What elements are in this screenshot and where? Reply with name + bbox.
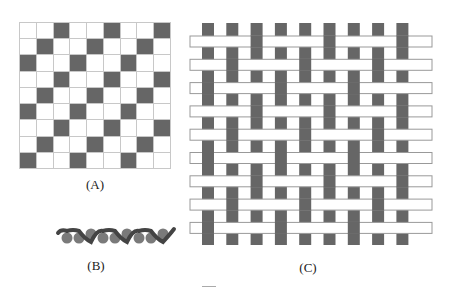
grid-cell xyxy=(87,120,104,136)
grid-cell xyxy=(137,153,154,169)
grid-cell xyxy=(87,153,104,169)
weft-strip xyxy=(190,106,432,117)
cross-section-diagram xyxy=(55,225,177,249)
grid-cell xyxy=(20,23,37,39)
grid-cell xyxy=(154,39,171,55)
grid-cell xyxy=(137,137,154,153)
grid-cell xyxy=(20,120,37,136)
grid-cell xyxy=(121,72,138,88)
grid-cell xyxy=(54,55,71,71)
grid-cell xyxy=(104,137,121,153)
grid-cell xyxy=(154,153,171,169)
grid-cell xyxy=(20,39,37,55)
grid-cell xyxy=(87,72,104,88)
panel-a-label: (A) xyxy=(75,177,115,193)
grid-cell xyxy=(104,23,121,39)
grid-cell xyxy=(54,88,71,104)
grid-cell xyxy=(37,153,54,169)
weave-draft-grid-panel xyxy=(19,22,171,169)
grid-cell xyxy=(154,55,171,71)
grid-cell xyxy=(20,137,37,153)
grid-cell xyxy=(54,23,71,39)
grid-cell xyxy=(37,88,54,104)
weft-strip xyxy=(190,83,432,94)
grid-cell xyxy=(87,39,104,55)
grid-cell xyxy=(54,153,71,169)
grid-cell xyxy=(70,23,87,39)
weft-strip xyxy=(190,176,432,187)
grid-cell xyxy=(137,39,154,55)
woven-fabric-diagram xyxy=(188,20,436,250)
grid-cell xyxy=(70,104,87,120)
grid-cell xyxy=(87,88,104,104)
grid-cell xyxy=(154,23,171,39)
grid-cell xyxy=(87,104,104,120)
grid-cell xyxy=(37,55,54,71)
grid-cell xyxy=(54,104,71,120)
grid-cell xyxy=(104,88,121,104)
grid-cell xyxy=(104,39,121,55)
grid-cell xyxy=(137,120,154,136)
grid-cell xyxy=(104,72,121,88)
grid-cell xyxy=(70,39,87,55)
weft-strip xyxy=(190,36,432,47)
grid-cell xyxy=(20,72,37,88)
grid-cell xyxy=(121,104,138,120)
cross-section-panel xyxy=(55,225,177,249)
grid-cell xyxy=(87,55,104,71)
grid-cell xyxy=(104,153,121,169)
grid-cell xyxy=(121,39,138,55)
grid-cell xyxy=(121,137,138,153)
panel-c-label: (C) xyxy=(288,260,328,276)
grid-cell xyxy=(121,120,138,136)
grid-cell xyxy=(137,104,154,120)
grid-cell xyxy=(104,120,121,136)
grid-cell xyxy=(154,120,171,136)
grid-cell xyxy=(87,23,104,39)
grid-cell xyxy=(20,88,37,104)
grid-cell xyxy=(70,153,87,169)
grid-cell xyxy=(121,88,138,104)
grid-cell xyxy=(70,137,87,153)
grid-cell xyxy=(104,55,121,71)
grid-cell xyxy=(154,88,171,104)
grid-cell xyxy=(137,72,154,88)
grid-cell xyxy=(37,39,54,55)
grid-cell xyxy=(37,120,54,136)
panel-b-label: (B) xyxy=(76,258,116,274)
grid-cell xyxy=(37,104,54,120)
grid-cell xyxy=(70,88,87,104)
weave-draft-grid xyxy=(19,22,171,169)
grid-cell xyxy=(137,23,154,39)
grid-cell xyxy=(121,55,138,71)
grid-cell xyxy=(20,104,37,120)
grid-cell xyxy=(37,72,54,88)
weft-strip xyxy=(190,153,432,164)
grid-cell xyxy=(70,72,87,88)
grid-cell xyxy=(37,23,54,39)
grid-cell xyxy=(154,137,171,153)
grid-cell xyxy=(37,137,54,153)
grid-cell xyxy=(54,137,71,153)
grid-cell xyxy=(121,153,138,169)
grid-cell xyxy=(54,120,71,136)
grid-cell xyxy=(137,88,154,104)
weft-strip xyxy=(190,222,432,233)
grid-cell xyxy=(137,55,154,71)
grid-cell xyxy=(70,55,87,71)
stray-divider-line xyxy=(202,286,216,287)
woven-fabric-panel xyxy=(188,20,436,250)
grid-cell xyxy=(87,137,104,153)
grid-cell xyxy=(54,72,71,88)
grid-cell xyxy=(154,72,171,88)
grid-cell xyxy=(104,104,121,120)
grid-cell xyxy=(121,23,138,39)
grid-cell xyxy=(70,120,87,136)
grid-cell xyxy=(54,39,71,55)
grid-cell xyxy=(20,153,37,169)
grid-cell xyxy=(20,55,37,71)
grid-cell xyxy=(154,104,171,120)
